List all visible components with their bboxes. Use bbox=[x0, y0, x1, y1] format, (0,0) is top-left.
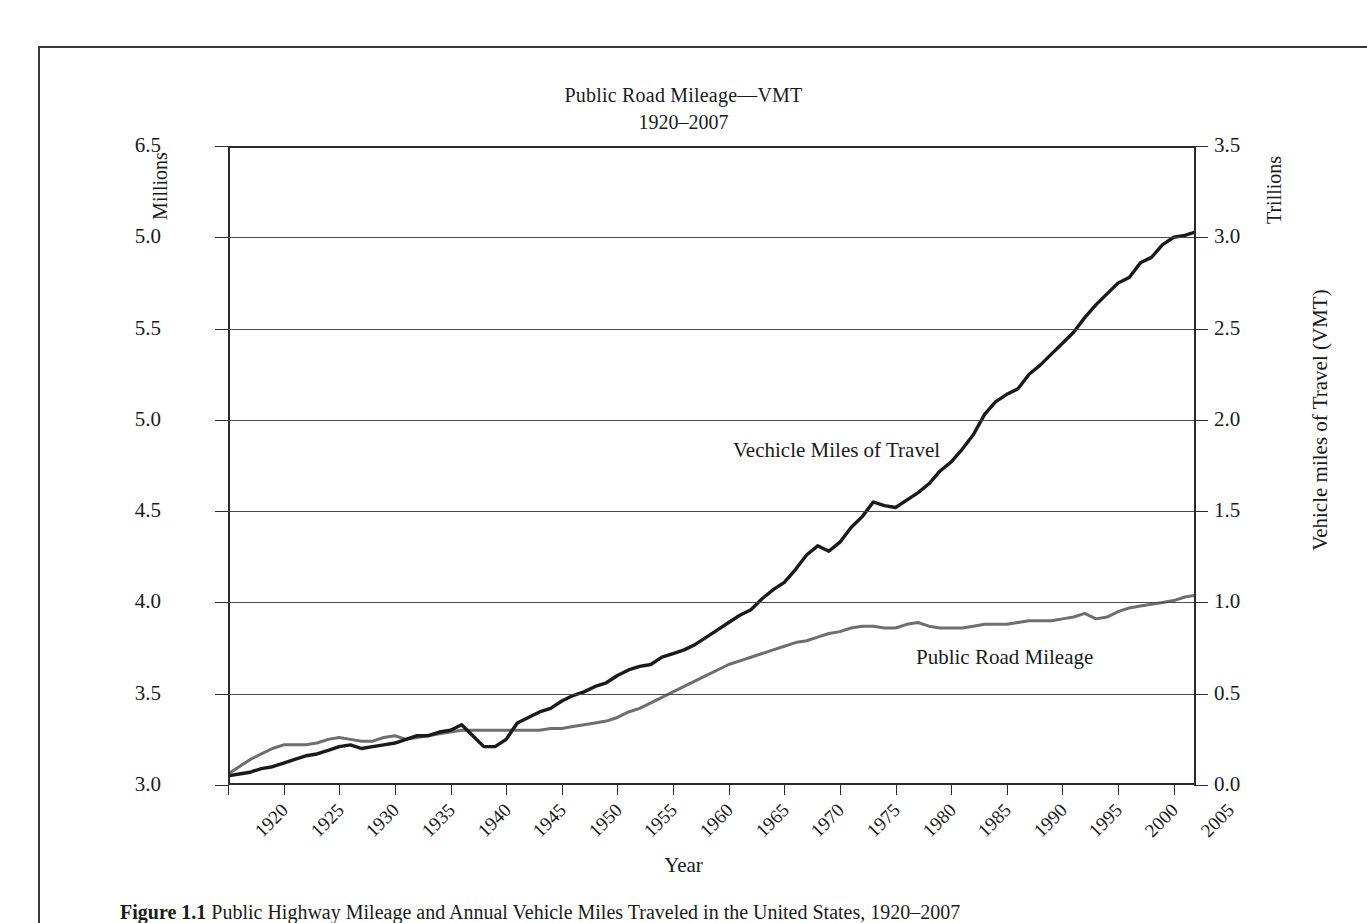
x-tick bbox=[729, 783, 730, 795]
x-tick bbox=[451, 783, 452, 795]
chart-title: Public Road Mileage—VMT bbox=[0, 82, 1367, 109]
left-tick-label: 5.5 bbox=[81, 318, 161, 339]
right-tick bbox=[1194, 237, 1208, 238]
left-tick bbox=[215, 511, 228, 512]
right-tick-label: 1.5 bbox=[1214, 500, 1294, 521]
x-tick bbox=[506, 783, 507, 795]
series-lines bbox=[228, 146, 1196, 785]
x-tick bbox=[228, 783, 229, 795]
x-tick bbox=[1174, 783, 1175, 795]
x-tick bbox=[395, 783, 396, 795]
right-tick bbox=[1194, 602, 1208, 603]
x-tick bbox=[284, 783, 285, 795]
left-tick bbox=[215, 329, 228, 330]
x-tick bbox=[562, 783, 563, 795]
x-tick bbox=[951, 783, 952, 795]
right-tick-label: 1.0 bbox=[1214, 591, 1294, 612]
figure-caption: Figure 1.1 Public Highway Mileage and An… bbox=[120, 900, 1300, 923]
x-tick bbox=[1118, 783, 1119, 795]
left-tick bbox=[215, 237, 228, 238]
x-axis-title: Year bbox=[0, 853, 1367, 878]
left-tick-label: 6.5 bbox=[81, 135, 161, 156]
right-tick-label: 0.0 bbox=[1214, 774, 1294, 795]
left-tick-label: 5.0 bbox=[81, 226, 161, 247]
right-tick-label: 3.5 bbox=[1214, 135, 1294, 156]
x-tick bbox=[617, 783, 618, 795]
right-tick bbox=[1194, 146, 1208, 147]
plot-area bbox=[228, 146, 1196, 785]
figure-caption-label: Figure 1.1 bbox=[120, 901, 206, 923]
x-tick bbox=[896, 783, 897, 795]
right-tick bbox=[1194, 329, 1208, 330]
left-tick bbox=[215, 694, 228, 695]
right-tick-label: 2.5 bbox=[1214, 318, 1294, 339]
vmt-series-annotation: Vechicle Miles of Travel bbox=[733, 438, 940, 463]
x-tick bbox=[1007, 783, 1008, 795]
x-tick bbox=[840, 783, 841, 795]
left-tick bbox=[215, 420, 228, 421]
left-tick bbox=[215, 146, 228, 147]
gridline bbox=[228, 420, 1196, 421]
chart-subtitle: 1920–2007 bbox=[0, 109, 1367, 136]
gridline bbox=[228, 329, 1196, 330]
left-tick-label: 3.5 bbox=[81, 683, 161, 704]
right-tick bbox=[1194, 785, 1208, 786]
left-axis-unit-label: Millions bbox=[149, 152, 172, 220]
gridline bbox=[228, 694, 1196, 695]
left-tick-label: 4.0 bbox=[81, 591, 161, 612]
right-tick-label: 0.5 bbox=[1214, 683, 1294, 704]
mileage-series-annotation: Public Road Mileage bbox=[916, 645, 1093, 670]
left-tick-label: 3.0 bbox=[81, 774, 161, 795]
right-tick bbox=[1194, 420, 1208, 421]
right-tick bbox=[1194, 511, 1208, 512]
gridline bbox=[228, 511, 1196, 512]
axis-top-line bbox=[228, 146, 1196, 148]
left-axis-title: Public Road Mileage bbox=[0, 223, 1, 400]
x-tick bbox=[339, 783, 340, 795]
gridline bbox=[228, 237, 1196, 238]
right-tick-label: 2.0 bbox=[1214, 409, 1294, 430]
figure-container: Public Road Mileage—VMT 1920–2007 Millio… bbox=[0, 0, 1367, 923]
figure-caption-text: Public Highway Mileage and Annual Vehicl… bbox=[211, 901, 960, 923]
left-tick bbox=[215, 602, 228, 603]
left-tick-label: 5.0 bbox=[81, 409, 161, 430]
left-tick-label: 4.5 bbox=[81, 500, 161, 521]
right-axis-unit-label: Trillions bbox=[1263, 156, 1286, 224]
gridline bbox=[228, 602, 1196, 603]
x-tick bbox=[784, 783, 785, 795]
right-tick bbox=[1194, 694, 1208, 695]
axis-left-line bbox=[228, 146, 230, 785]
axis-bottom-line bbox=[228, 783, 1196, 785]
x-tick bbox=[673, 783, 674, 795]
right-tick-label: 3.0 bbox=[1214, 226, 1294, 247]
x-tick bbox=[1062, 783, 1063, 795]
axis-right-line bbox=[1194, 146, 1196, 785]
right-axis-title: Vehicle miles of Travel (VMT) bbox=[1308, 289, 1333, 550]
left-tick bbox=[215, 785, 228, 786]
